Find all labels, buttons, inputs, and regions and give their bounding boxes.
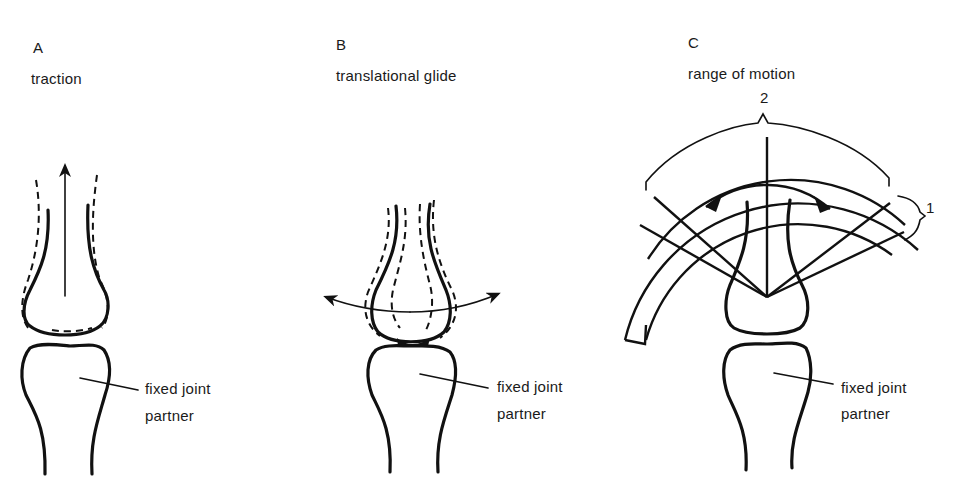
outer-arc-extended	[625, 204, 918, 340]
moving-bone-outline	[24, 205, 108, 335]
radial-spoke-left-1	[654, 197, 767, 297]
middle-arc	[646, 224, 892, 340]
displaced-bone-base	[52, 328, 92, 331]
outer-arc	[648, 180, 905, 259]
panel-a-traction-drawing	[22, 166, 138, 474]
pointer-line	[774, 373, 833, 384]
displaced-outline-left-b	[392, 208, 406, 328]
glide-arrow-left-icon	[326, 297, 410, 312]
fixed-bone-outline	[22, 344, 109, 474]
radial-spoke-left-2	[640, 225, 767, 297]
moving-bone-outline	[372, 204, 451, 342]
fixed-bone-outline	[368, 346, 456, 472]
radial-spoke-right-1	[767, 203, 890, 297]
panel-c-range-drawing	[625, 114, 925, 470]
panel-b-glide-drawing	[326, 200, 498, 472]
joint-diagrams	[0, 0, 961, 499]
fixed-bone-outline	[724, 343, 811, 470]
displaced-bone-outline-right	[93, 175, 108, 328]
